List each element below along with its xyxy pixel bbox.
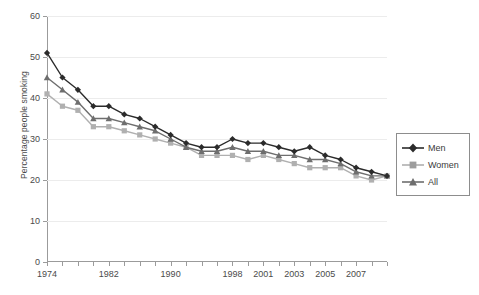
x-tick-mark [279, 262, 280, 266]
legend-label-men: Men [428, 143, 446, 153]
data-point-marker [322, 152, 328, 158]
data-point-marker [245, 157, 250, 162]
data-point-marker [153, 136, 158, 141]
x-tick-mark [47, 262, 48, 266]
x-tick-label: 2005 [315, 269, 335, 279]
x-tick-label: 2001 [253, 269, 273, 279]
x-tick-mark [217, 262, 218, 266]
x-tick-mark [263, 262, 264, 266]
x-tick-label: 1974 [37, 269, 57, 279]
data-point-marker [338, 156, 344, 162]
data-point-marker [229, 144, 235, 150]
x-tick-mark [109, 262, 110, 266]
x-tick-mark [356, 262, 357, 266]
series-women [44, 91, 389, 182]
data-point-marker [276, 144, 282, 150]
legend-item-men[interactable]: Men [401, 139, 465, 156]
y-tick-label: 40 [30, 93, 40, 103]
data-point-marker [137, 115, 143, 121]
data-point-marker [230, 153, 235, 158]
data-point-marker [106, 103, 112, 109]
data-point-marker [291, 148, 297, 154]
y-tick-label: 30 [30, 134, 40, 144]
legend-item-all[interactable]: All [401, 173, 465, 190]
legend-key-all-icon [401, 175, 425, 189]
legend-key-women-icon [401, 158, 425, 172]
legend-item-women[interactable]: Women [401, 156, 465, 173]
x-tick-mark [171, 262, 172, 266]
plot-area: 0102030405060 19741982199019982001200320… [47, 16, 387, 262]
data-point-marker [260, 140, 266, 146]
x-tick-label: 2003 [284, 269, 304, 279]
x-tick-mark [155, 262, 156, 266]
data-point-marker [292, 161, 297, 166]
data-point-marker [91, 124, 96, 129]
data-point-marker [60, 104, 65, 109]
x-tick-mark [372, 262, 373, 266]
x-tick-label: 1998 [222, 269, 242, 279]
x-tick-label: 1982 [99, 269, 119, 279]
data-point-marker [75, 108, 80, 113]
data-point-marker [323, 165, 328, 170]
data-point-marker [106, 124, 111, 129]
y-tick-label: 50 [30, 52, 40, 62]
data-point-marker [214, 144, 220, 150]
data-point-marker [121, 111, 127, 117]
x-tick-mark [387, 262, 388, 266]
data-point-marker [198, 144, 204, 150]
x-tick-mark [325, 262, 326, 266]
y-axis-title: Percentage people smoking [19, 45, 29, 205]
x-tick-mark [93, 262, 94, 266]
x-tick-mark [124, 262, 125, 266]
x-tick-mark [294, 262, 295, 266]
x-tick-mark [186, 262, 187, 266]
data-point-marker [245, 140, 251, 146]
x-tick-mark [341, 262, 342, 266]
y-tick-label: 60 [30, 11, 40, 21]
x-tick-mark [62, 262, 63, 266]
series-layer [47, 16, 387, 262]
legend-label-women: Women [428, 160, 459, 170]
x-tick-label: 1990 [161, 269, 181, 279]
data-point-marker [122, 128, 127, 133]
smoking-prevalence-line-chart: Percentage people smoking 0102030405060 … [0, 0, 479, 295]
data-point-marker [307, 165, 312, 170]
legend-key-men-icon [401, 141, 425, 155]
series-men [44, 50, 390, 179]
data-point-marker [368, 169, 374, 175]
y-tick-label: 0 [35, 257, 40, 267]
legend-label-all: All [428, 177, 438, 187]
x-tick-mark [140, 262, 141, 266]
x-tick-mark [78, 262, 79, 266]
data-point-marker [307, 144, 313, 150]
data-point-marker [137, 132, 142, 137]
x-tick-mark [202, 262, 203, 266]
data-point-marker [44, 91, 49, 96]
y-tick-label: 20 [30, 175, 40, 185]
y-tick-label: 10 [30, 216, 40, 226]
x-tick-mark [310, 262, 311, 266]
data-point-marker [229, 136, 235, 142]
chart-legend: Men Women All [396, 133, 470, 196]
data-point-marker [44, 74, 50, 80]
x-tick-mark [248, 262, 249, 266]
x-tick-mark [232, 262, 233, 266]
data-point-marker [152, 124, 158, 130]
x-tick-label: 2007 [346, 269, 366, 279]
